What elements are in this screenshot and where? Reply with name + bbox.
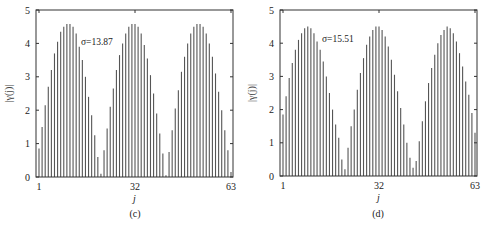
x-tick-label: 63 (470, 180, 480, 191)
y-tick-label: 4 (25, 38, 30, 49)
panel-c: 01234513263j|γ(j)|σ=13.87 (c) (0, 0, 243, 231)
panel-d: 01234513263j|γ(j)|σ=15.51 (d) (243, 0, 486, 231)
caption-c: (c) (115, 208, 155, 219)
bars (39, 24, 231, 177)
caption-d: (d) (358, 208, 398, 219)
y-tick-label: 1 (25, 138, 30, 149)
sigma-annotation: σ=13.87 (81, 37, 113, 47)
x-axis-label: j (375, 192, 380, 203)
y-tick-label: 0 (25, 172, 30, 183)
x-tick-label: 32 (374, 180, 384, 191)
y-tick-label: 3 (269, 71, 274, 82)
bar-chart-c: 01234513263j|γ(j)|σ=13.87 (0, 0, 243, 231)
y-tick-label: 2 (25, 105, 30, 116)
x-tick-label: 1 (37, 181, 42, 192)
y-axis-label: |γ(j)| (246, 84, 258, 102)
y-tick-label: 5 (25, 5, 30, 16)
y-tick-label: 4 (269, 38, 274, 49)
sigma-annotation: σ=15.51 (322, 34, 354, 44)
x-tick-label: 63 (226, 181, 236, 192)
y-axis-label: |γ(j)| (3, 85, 15, 103)
y-tick-label: 2 (269, 104, 274, 115)
x-tick-label: 1 (281, 180, 286, 191)
x-axis-label: j (131, 193, 136, 204)
x-tick-label: 32 (130, 181, 140, 192)
y-tick-label: 3 (25, 71, 30, 82)
y-tick-label: 1 (269, 137, 274, 148)
bar-chart-d: 01234513263j|γ(j)|σ=15.51 (243, 0, 486, 231)
bars (283, 27, 475, 176)
y-tick-label: 0 (269, 171, 274, 182)
y-tick-label: 5 (269, 5, 274, 16)
